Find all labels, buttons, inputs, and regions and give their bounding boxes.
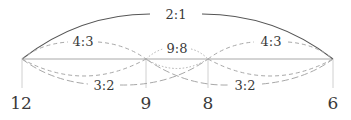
label-fourth-left: 4:3 [73,34,94,49]
node-label-12: 12 [10,93,32,113]
label-tone: 9:8 [167,41,188,56]
node-ticks [22,59,333,88]
arc-tone-upper-b [191,49,208,59]
label-octave: 2:1 [166,7,187,22]
harmonic-ratio-diagram: 2:1 4:3 4:3 9:8 3:2 3:2 12 9 8 6 [0,0,351,120]
label-fifth-right: 3:2 [235,78,256,93]
arc-lower-8-6 [208,59,333,76]
node-label-8: 8 [203,93,214,113]
arc-fourth-right-a [208,42,254,59]
arc-fourth-right-b [288,42,333,59]
arc-fourth-left-a [22,42,68,59]
arc-tone-upper-a [146,49,163,59]
label-fourth-right: 4:3 [261,34,282,49]
arc-lower-12-9 [22,59,146,76]
arc-fourth-left-b [98,42,146,59]
arc-fifth-left-a [22,59,88,84]
node-label-6: 6 [328,93,339,113]
arc-fifth-right-b [262,59,333,84]
label-fifth-left: 3:2 [94,78,115,93]
node-label-9: 9 [141,93,152,113]
arc-tone-lower [146,59,208,69]
